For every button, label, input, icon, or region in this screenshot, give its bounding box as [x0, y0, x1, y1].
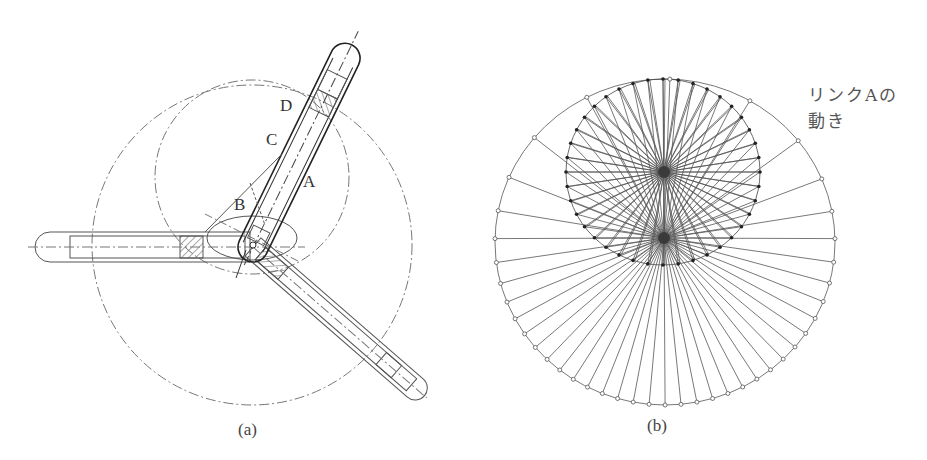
outer-point: [804, 331, 808, 335]
outer-point: [832, 260, 836, 264]
inner-point: [754, 142, 758, 146]
outer-point: [813, 316, 817, 320]
inner-point: [583, 225, 587, 229]
outer-point: [668, 77, 672, 81]
inner-point: [575, 128, 579, 132]
caption-a: (a): [238, 420, 257, 440]
inner-point: [691, 82, 695, 86]
inner-point: [646, 78, 650, 82]
inner-point: [758, 170, 762, 174]
inner-point: [740, 225, 744, 229]
outer-point: [828, 281, 832, 285]
outer-point: [796, 139, 800, 143]
outer-point: [507, 175, 511, 179]
outer-point: [533, 345, 537, 349]
inner-point: [748, 128, 752, 132]
spoke-line: [515, 187, 759, 319]
outer-point: [741, 385, 745, 389]
linkage-diagram-a: [28, 25, 434, 407]
outer-point: [821, 300, 825, 304]
annotation-link-a-motion: リンクAの 動き: [808, 82, 898, 134]
outer-point: [616, 397, 620, 401]
label-A: A: [303, 172, 315, 192]
label-C: C: [266, 130, 277, 150]
inner-point: [661, 77, 665, 81]
label-D: D: [280, 96, 292, 116]
focus-upper: [658, 166, 670, 178]
outer-point: [532, 136, 536, 140]
inner-point: [705, 253, 709, 257]
outer-point: [755, 377, 759, 381]
outer-point: [585, 95, 589, 99]
annotation-line-1: リンクAの: [808, 82, 898, 108]
annotation-line-2: 動き: [808, 108, 898, 134]
spoke-line: [567, 187, 815, 319]
inner-point: [661, 263, 665, 267]
outer-point: [748, 99, 752, 103]
inner-point: [604, 245, 608, 249]
outer-point: [781, 357, 785, 361]
inner-point: [757, 185, 761, 189]
outer-point: [833, 237, 837, 241]
inner-point: [705, 87, 709, 91]
inner-point: [583, 116, 587, 120]
inner-point: [748, 212, 752, 216]
outer-point: [663, 403, 667, 407]
inner-point: [569, 142, 573, 146]
inner-point: [730, 104, 734, 108]
inner-point: [565, 185, 569, 189]
inner-point: [604, 95, 608, 99]
outer-point: [494, 261, 498, 265]
arm-lower-right: [245, 238, 434, 407]
outer-point: [726, 392, 730, 396]
inner-point: [575, 212, 579, 216]
inner-point: [565, 156, 569, 160]
outer-point: [631, 400, 635, 404]
spoke-line: [585, 117, 757, 379]
outer-point: [769, 368, 773, 372]
locus-diagram-b: [493, 77, 837, 407]
spoke-line: [633, 141, 798, 261]
outer-point: [496, 209, 500, 213]
outer-point: [830, 209, 834, 213]
inner-point: [569, 199, 573, 203]
inner-point: [740, 116, 744, 120]
inner-point: [646, 262, 650, 266]
outer-point: [820, 177, 824, 181]
figure-canvas: [0, 0, 927, 460]
link-A: [231, 25, 372, 272]
inner-point: [593, 236, 597, 240]
pivot-point: [250, 242, 256, 248]
outer-point: [513, 317, 517, 321]
outer-point: [558, 368, 562, 372]
inner-point: [593, 104, 597, 108]
outer-point: [679, 402, 683, 406]
focus-lower: [658, 232, 670, 244]
outer-point: [499, 282, 503, 286]
inner-point: [676, 262, 680, 266]
spoke-line: [618, 89, 707, 398]
inner-point: [757, 156, 761, 160]
outer-point: [647, 402, 651, 406]
outer-point: [571, 377, 575, 381]
outer-point: [586, 385, 590, 389]
outer-point: [505, 300, 509, 304]
inner-point: [631, 259, 635, 263]
outer-point: [793, 345, 797, 349]
outer-point: [523, 332, 527, 336]
inner-point: [718, 245, 722, 249]
caption-b: (b): [647, 416, 667, 436]
spoke-line: [567, 158, 795, 348]
outer-point: [545, 357, 549, 361]
outer-point: [711, 397, 715, 401]
inner-point: [631, 82, 635, 86]
inner-point: [676, 78, 680, 82]
outer-point: [493, 237, 497, 241]
inner-point: [564, 170, 568, 174]
outer-point: [695, 400, 699, 404]
inner-point: [718, 95, 722, 99]
inner-point: [691, 259, 695, 263]
inner-point: [730, 236, 734, 240]
inner-point: [754, 199, 758, 203]
label-B: B: [234, 195, 245, 215]
